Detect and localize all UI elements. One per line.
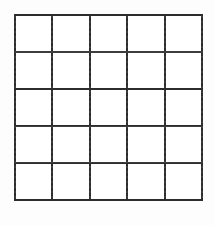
grid-cell[interactable] xyxy=(53,53,88,88)
grid-row xyxy=(16,90,201,125)
grid-cell[interactable] xyxy=(16,53,51,88)
grid-cell[interactable] xyxy=(128,164,163,199)
grid-cell[interactable] xyxy=(128,90,163,125)
grid-cell[interactable] xyxy=(166,53,201,88)
grid-cell[interactable] xyxy=(53,127,88,162)
grid-cell[interactable] xyxy=(16,16,51,51)
grid-cell[interactable] xyxy=(128,53,163,88)
page-canvas xyxy=(0,0,214,225)
grid-cell[interactable] xyxy=(53,164,88,199)
grid-row xyxy=(16,53,201,88)
grid-cell[interactable] xyxy=(91,16,126,51)
grid-cell[interactable] xyxy=(166,127,201,162)
grid-cell[interactable] xyxy=(91,127,126,162)
grid-table xyxy=(14,14,203,201)
grid-cell[interactable] xyxy=(16,164,51,199)
grid-cell[interactable] xyxy=(166,164,201,199)
grid-cell[interactable] xyxy=(91,90,126,125)
grid-cell[interactable] xyxy=(166,90,201,125)
grid-cell[interactable] xyxy=(16,90,51,125)
grid-cell[interactable] xyxy=(128,127,163,162)
grid-cell[interactable] xyxy=(53,16,88,51)
grid-cell[interactable] xyxy=(91,53,126,88)
grid-cell[interactable] xyxy=(16,127,51,162)
grid-cell[interactable] xyxy=(91,164,126,199)
grid-row xyxy=(16,164,201,199)
grid-row xyxy=(16,16,201,51)
grid-cell[interactable] xyxy=(128,16,163,51)
grid-row xyxy=(16,127,201,162)
grid-cell[interactable] xyxy=(53,90,88,125)
grid-cell[interactable] xyxy=(166,16,201,51)
